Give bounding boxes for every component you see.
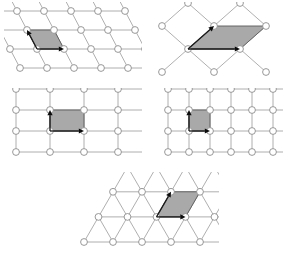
lattice-node: [249, 88, 256, 92]
lattice-node: [165, 107, 172, 114]
lattice-node: [207, 88, 214, 92]
lattice-node: [249, 107, 256, 114]
lattice-node: [249, 128, 256, 135]
lattice-node: [95, 214, 102, 221]
lattice-node: [270, 149, 277, 156]
lattice-node: [228, 128, 235, 135]
lattice-node: [7, 46, 14, 53]
lattice-node: [197, 239, 204, 246]
lattice-node: [228, 107, 235, 114]
lattice-node: [270, 88, 277, 92]
lattice-node: [249, 149, 256, 156]
lattice-edge: [214, 3, 240, 26]
lattice-node: [95, 8, 102, 15]
rectangular-lattice-unit-cell: [50, 110, 84, 131]
lattice-edge: [188, 49, 214, 72]
lattice-node: [81, 239, 88, 246]
lattice-node: [14, 8, 21, 15]
lattice-node: [263, 69, 270, 76]
lattice-edge: [142, 192, 157, 217]
lattice-node: [13, 128, 20, 135]
lattice-edge: [99, 217, 114, 242]
lattice-node: [17, 65, 24, 72]
lattice-node: [211, 214, 218, 221]
lattice-edge: [162, 49, 188, 72]
rectangular-lattice: [4, 88, 142, 170]
lattice-node: [165, 88, 172, 92]
lattice-edge: [200, 217, 215, 242]
lattice-node: [110, 239, 117, 246]
lattice-node: [47, 149, 54, 156]
lattice-node: [125, 65, 132, 72]
oblique-lattice: [4, 2, 142, 84]
lattice-node: [197, 188, 204, 195]
lattice-node: [47, 88, 54, 92]
lattice-node: [207, 107, 214, 114]
lattice-node: [81, 107, 88, 114]
rectangular-lattice-unit-cell-shape: [50, 110, 84, 131]
lattice-edge: [128, 217, 143, 242]
lattice-edge: [84, 217, 99, 242]
lattice-edge: [162, 3, 188, 26]
lattice-node: [168, 239, 175, 246]
lattice-node: [270, 128, 277, 135]
lattice-node: [159, 69, 166, 76]
lattice-node: [263, 23, 270, 30]
lattice-node: [98, 65, 105, 72]
lattice-node: [81, 149, 88, 156]
lattice-edge: [186, 217, 201, 242]
bravais-lattice-figure: [0, 0, 283, 262]
lattice-node: [13, 107, 20, 114]
square-lattice: [150, 88, 283, 170]
lattice-edge: [128, 192, 143, 217]
lattice-node: [228, 88, 235, 92]
lattice-node: [115, 149, 122, 156]
lattice-node: [105, 27, 112, 34]
hexagonal-lattice-nodes: [81, 172, 219, 245]
lattice-edge: [157, 217, 172, 242]
lattice-node: [115, 46, 122, 53]
lattice-node: [110, 188, 117, 195]
oblique-lattice-nodes: [4, 2, 142, 71]
lattice-node: [13, 88, 20, 92]
lattice-node: [159, 23, 166, 30]
square-lattice-unit-cell-shape: [189, 110, 210, 131]
centered-rectangular-lattice-unit-cell: [188, 26, 266, 49]
lattice-node: [122, 8, 129, 15]
lattice-node: [207, 149, 214, 156]
lattice-node: [51, 27, 58, 34]
lattice-node: [44, 65, 51, 72]
centered-rectangular-lattice-unit-cell-shape: [188, 26, 266, 49]
lattice-node: [132, 27, 139, 34]
lattice-edge: [113, 192, 128, 217]
lattice-node: [165, 149, 172, 156]
lattice-node: [228, 149, 235, 156]
lattice-node: [139, 188, 146, 195]
lattice-edge: [200, 192, 215, 217]
lattice-edge: [99, 192, 114, 217]
lattice-node: [270, 107, 277, 114]
lattice-node: [115, 88, 122, 92]
lattice-node: [13, 149, 20, 156]
hexagonal-lattice: [64, 172, 219, 260]
lattice-node: [81, 88, 88, 92]
lattice-edge: [162, 26, 188, 49]
lattice-node: [78, 27, 85, 34]
lattice-node: [88, 46, 95, 53]
lattice-node: [71, 65, 78, 72]
square-lattice-unit-cell: [189, 110, 210, 131]
hexagonal-lattice-edges: [84, 172, 219, 242]
lattice-edge: [240, 49, 266, 72]
square-lattice-edges: [168, 88, 283, 152]
lattice-node: [237, 2, 244, 6]
lattice-node: [139, 239, 146, 246]
lattice-edge: [215, 172, 220, 192]
lattice-edge: [142, 217, 157, 242]
lattice-node: [165, 128, 172, 135]
lattice-node: [185, 2, 192, 6]
lattice-edge: [113, 217, 128, 242]
lattice-edge: [188, 3, 214, 26]
lattice-node: [115, 107, 122, 114]
lattice-node: [124, 214, 131, 221]
lattice-node: [186, 88, 193, 92]
